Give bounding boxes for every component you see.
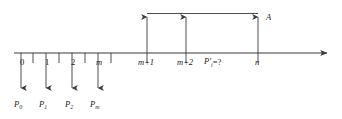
annuity-label: A <box>266 13 271 22</box>
payment-label-2: P2 <box>65 100 73 109</box>
payment-label-1-subscript: 1 <box>44 104 47 110</box>
period-label-0: 0 <box>20 58 24 67</box>
payment-label-1: P1 <box>39 100 47 109</box>
payment-label-0-subscript: 0 <box>19 104 22 110</box>
cash-flow-diagram: 0 1 2 m m+1 m+2 n P′i=? A P0 P1 P2 Pm <box>0 0 342 119</box>
unknown-payment-subscript: i <box>211 62 213 68</box>
payment-label-m-subscript: m <box>95 104 99 110</box>
inflow-arrows <box>147 17 258 53</box>
period-label-m: m <box>96 58 102 67</box>
period-label-n: n <box>255 58 259 67</box>
unknown-payment-label: P′i=? <box>204 58 221 67</box>
period-label-m-plus-1: m+1 <box>138 58 154 67</box>
payment-label-0: P0 <box>14 100 22 109</box>
period-label-m-plus-2: m+2 <box>177 58 193 67</box>
unknown-payment-value: ? <box>217 57 221 67</box>
payment-label-m: Pm <box>90 100 99 109</box>
period-label-1: 1 <box>45 58 49 67</box>
payment-label-2-subscript: 2 <box>70 104 73 110</box>
period-label-2: 2 <box>71 58 75 67</box>
diagram-canvas <box>0 0 342 119</box>
